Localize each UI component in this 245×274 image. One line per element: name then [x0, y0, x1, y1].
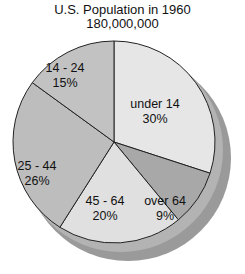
slice-category-label: under 14: [130, 97, 179, 111]
slice-percent-label: 15%: [52, 76, 77, 90]
slice-percent-label: 26%: [24, 174, 49, 188]
slice-percent-label: 30%: [142, 112, 167, 126]
slice-category-label: 14 - 24: [46, 61, 85, 75]
slice-category-label: over 64: [144, 194, 186, 208]
slice-percent-label: 20%: [92, 209, 117, 223]
pie-chart: under 1430%over 649%45 - 6420%25 - 4426%…: [0, 0, 245, 274]
slice-percent-label: 9%: [156, 209, 174, 223]
slice-category-label: 25 - 44: [18, 159, 57, 173]
slice-category-label: 45 - 64: [86, 194, 125, 208]
